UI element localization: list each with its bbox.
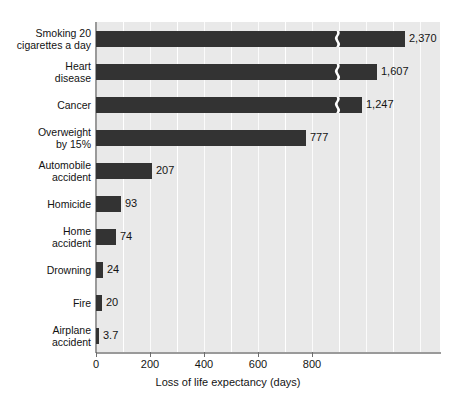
x-axis-title: Loss of life expectancy (days) xyxy=(0,376,456,388)
x-axis-tick xyxy=(312,352,313,357)
bar-row: Overweight by 15%777 xyxy=(0,121,456,154)
bar-value-label: 93 xyxy=(125,197,137,209)
category-label: Home accident xyxy=(0,225,91,249)
x-axis-tick-label: 200 xyxy=(141,358,159,370)
category-label: Smoking 20 cigarettes a day xyxy=(0,27,91,51)
bar-value-label: 3.7 xyxy=(103,329,118,341)
x-axis-tick xyxy=(204,352,205,357)
bar-value-label: 207 xyxy=(156,164,174,176)
bar-value-label: 777 xyxy=(310,131,328,143)
category-label: Cancer xyxy=(0,99,91,111)
x-axis-tick xyxy=(150,352,151,357)
bar xyxy=(96,295,102,311)
bar xyxy=(96,64,377,80)
axis-break-icon xyxy=(333,97,342,113)
category-label: Homicide xyxy=(0,198,91,210)
bar-value-label: 1,247 xyxy=(366,98,394,110)
x-axis-tick-label: 0 xyxy=(93,358,99,370)
axis-break-icon xyxy=(333,64,342,80)
category-label: Fire xyxy=(0,297,91,309)
bar xyxy=(96,196,121,212)
bar-value-label: 2,370 xyxy=(409,32,437,44)
bar-value-label: 24 xyxy=(107,263,119,275)
category-label: Heart disease xyxy=(0,60,91,84)
bar-row: Homicide93 xyxy=(0,187,456,220)
category-label: Drowning xyxy=(0,264,91,276)
bar-value-label: 1,607 xyxy=(381,65,409,77)
bar xyxy=(96,97,362,113)
x-axis-tick xyxy=(96,352,97,357)
bar-chart: 0200400600800 Smoking 20 cigarettes a da… xyxy=(0,0,456,397)
x-axis-tick-label: 600 xyxy=(249,358,267,370)
bar-row: Drowning24 xyxy=(0,253,456,286)
bar-row: Cancer1,247 xyxy=(0,88,456,121)
axis-break-icon xyxy=(333,31,342,47)
bar xyxy=(96,31,405,47)
bar-row: Smoking 20 cigarettes a day2,370 xyxy=(0,22,456,55)
bar xyxy=(96,163,152,179)
bar-row: Home accident74 xyxy=(0,220,456,253)
category-label: Overweight by 15% xyxy=(0,126,91,150)
category-label: Automobile accident xyxy=(0,159,91,183)
bar-row: Automobile accident207 xyxy=(0,154,456,187)
bar-value-label: 20 xyxy=(106,296,118,308)
x-axis-tick-label: 400 xyxy=(195,358,213,370)
x-axis-tick-label: 800 xyxy=(303,358,321,370)
category-label: Airplane accident xyxy=(0,324,91,348)
x-axis-line xyxy=(96,352,441,354)
bar-row: Heart disease1,607 xyxy=(0,55,456,88)
bar xyxy=(96,328,99,344)
bar xyxy=(96,262,103,278)
x-axis-tick xyxy=(258,352,259,357)
bar xyxy=(96,130,306,146)
bar-row: Airplane accident3.7 xyxy=(0,319,456,352)
bar xyxy=(96,229,116,245)
bar-value-label: 74 xyxy=(120,230,132,242)
bar-row: Fire20 xyxy=(0,286,456,319)
